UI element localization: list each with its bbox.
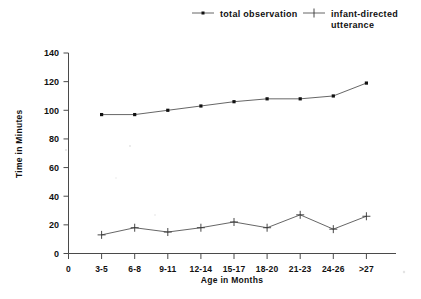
x-axis-ticks: 03-56-89-1112-1415-1718-2021-2324-26>27 — [66, 254, 374, 275]
x-axis-title: Age in Months — [201, 275, 263, 285]
y-axis-ticks: 020406080100120140 — [44, 48, 69, 259]
y-tick-label: 100 — [44, 106, 59, 116]
chart-series-layer — [98, 81, 371, 238]
data-point-marker — [266, 97, 269, 100]
y-tick-label: 0 — [54, 249, 59, 259]
data-point-marker — [332, 94, 335, 97]
legend-label-total-observation: total observation — [220, 9, 298, 19]
x-tick-label: 6-8 — [128, 264, 141, 274]
x-tick-label: >27 — [359, 264, 374, 274]
x-tick-label: 9-11 — [159, 264, 176, 274]
data-point-marker — [299, 97, 302, 100]
x-tick-label: 0 — [66, 264, 71, 274]
y-tick-label: 20 — [49, 220, 59, 230]
x-tick-label: 24-26 — [322, 264, 345, 274]
series-line — [102, 83, 367, 115]
data-point-marker — [199, 104, 202, 107]
y-tick-label: 40 — [49, 192, 59, 202]
x-tick-label: 21-23 — [289, 264, 312, 274]
data-point-marker — [133, 113, 136, 116]
y-tick-label: 120 — [44, 77, 59, 87]
x-tick-label: 15-17 — [223, 264, 246, 274]
y-tick-label: 140 — [44, 48, 59, 58]
x-tick-label: 12-14 — [190, 264, 213, 274]
x-tick-label: 18-20 — [256, 264, 279, 274]
legend-item-total-observation: total observation — [192, 9, 298, 19]
chart-legend: total observation infant-directed uttera… — [192, 9, 398, 30]
legend-label-infant-directed-line2: utterance — [331, 20, 374, 30]
y-axis-title: Time in Minutes — [14, 109, 24, 178]
series-total-observation — [100, 81, 368, 116]
x-tick-label: 3-5 — [95, 264, 108, 274]
legend-marker-square — [202, 12, 205, 15]
legend-item-infant-directed-utterance: infant-directed utterance — [303, 9, 398, 30]
data-point-marker — [166, 109, 169, 112]
y-tick-label: 80 — [49, 134, 59, 144]
data-point-marker — [365, 81, 368, 84]
y-tick-label: 60 — [49, 163, 59, 173]
data-point-marker — [100, 113, 103, 116]
line-chart: total observation infant-directed uttera… — [0, 0, 421, 299]
legend-label-infant-directed-line1: infant-directed — [331, 9, 398, 19]
data-point-marker — [232, 100, 235, 103]
series-infant-directed-utterance — [98, 211, 371, 239]
chart-container: total observation infant-directed uttera… — [0, 0, 421, 299]
